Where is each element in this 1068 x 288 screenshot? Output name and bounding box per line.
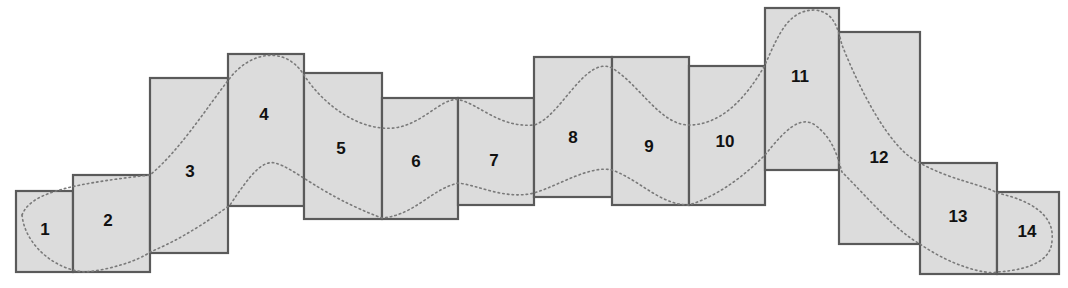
segment-label: 6 [411, 152, 420, 171]
segment-label: 13 [949, 207, 968, 226]
segment-label: 8 [568, 128, 577, 147]
segment-box-12 [839, 32, 920, 244]
segment-label: 10 [716, 132, 735, 151]
segment-diagram: 1234567891011121314 [0, 0, 1068, 288]
segment-label: 4 [259, 105, 269, 124]
segment-label: 14 [1018, 222, 1037, 241]
segment-label: 1 [40, 220, 49, 239]
segment-boxes [16, 8, 1059, 274]
segment-label: 7 [489, 151, 498, 170]
segment-label: 9 [644, 137, 653, 156]
segment-label: 2 [103, 211, 112, 230]
segment-label: 3 [185, 162, 194, 181]
segment-label: 5 [336, 139, 345, 158]
segment-label: 11 [791, 67, 809, 86]
segment-box-4 [228, 54, 304, 206]
segment-label: 12 [870, 148, 889, 167]
segment-box-11 [765, 8, 839, 170]
segment-box-9 [612, 57, 689, 205]
segment-box-8 [534, 57, 612, 197]
